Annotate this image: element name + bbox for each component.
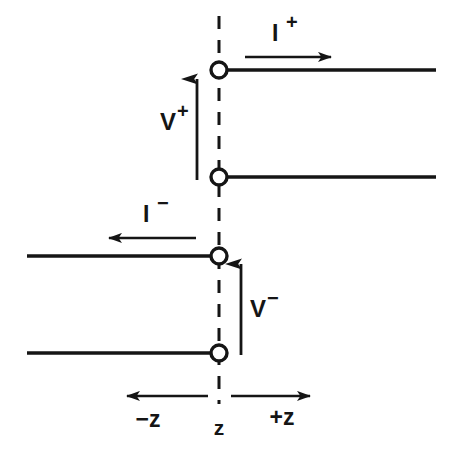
transmission-line-figure: I + I − V + V − −z z +z xyxy=(0,0,455,449)
figure-canvas: I + I − V + V − −z z +z xyxy=(0,0,455,449)
v-minus-label-text: V xyxy=(250,295,266,322)
terminal-node-1 xyxy=(211,62,227,78)
origin-z-label-text: z xyxy=(214,416,225,439)
v-minus-label: V − xyxy=(250,287,279,322)
i-plus-label-superscript: + xyxy=(286,11,298,33)
v-plus-label-superscript: + xyxy=(177,100,189,122)
minus-z-label: −z xyxy=(136,406,161,432)
minus-z-label-text: −z xyxy=(136,406,161,432)
origin-z-label: z xyxy=(214,416,225,439)
i-plus-label: I + xyxy=(272,11,298,46)
i-minus-label: I − xyxy=(143,192,169,227)
plus-z-label: +z xyxy=(270,404,295,430)
terminal-node-2 xyxy=(211,169,227,185)
v-plus-label: V + xyxy=(160,100,189,135)
v-minus-label-superscript: − xyxy=(267,287,279,309)
i-plus-label-text: I xyxy=(272,20,278,46)
plus-z-label-text: +z xyxy=(270,404,295,430)
i-minus-label-text: I xyxy=(143,201,149,227)
terminal-node-4 xyxy=(211,345,227,361)
terminal-node-3 xyxy=(211,248,227,264)
i-minus-label-superscript: − xyxy=(157,192,169,214)
v-plus-label-text: V xyxy=(160,108,176,135)
